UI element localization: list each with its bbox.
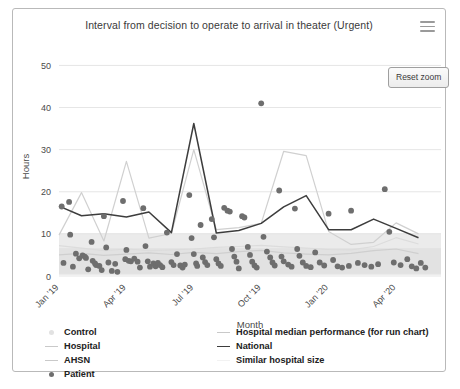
patient-data-point	[189, 235, 195, 241]
patient-data-point	[346, 263, 352, 269]
patient-data-point	[160, 264, 166, 270]
patient-data-point	[89, 239, 95, 245]
patient-data-point	[418, 260, 424, 266]
legend-label-national: National	[236, 341, 272, 351]
x-tick-label: Apr '20	[370, 282, 397, 309]
patient-data-point	[59, 204, 65, 210]
patient-data-point	[267, 255, 273, 261]
svg-text:Oct '19: Oct '19	[236, 282, 263, 309]
patient-data-point	[103, 245, 109, 251]
patient-data-point	[61, 260, 67, 266]
legend-item-patient[interactable]: Patient	[43, 367, 100, 381]
legend-item-control[interactable]: Control	[43, 325, 100, 339]
patient-data-point	[186, 192, 192, 198]
patient-data-point	[245, 244, 251, 250]
patient-data-point	[294, 246, 300, 252]
patient-data-point	[67, 232, 73, 238]
patient-data-point	[242, 215, 248, 221]
y-tick-label: 0	[46, 272, 51, 282]
svg-text:Apr '19: Apr '19	[101, 282, 128, 309]
legend-column-left: Control Hospital AHSN Patient	[43, 325, 100, 381]
patient-data-point	[137, 265, 143, 271]
patient-data-point	[66, 199, 72, 205]
patient-data-point	[234, 259, 240, 265]
patient-data-point	[209, 216, 215, 222]
legend-item-hospital-median[interactable]: Hospital median performance (for run cha…	[215, 325, 428, 339]
patient-data-point	[194, 263, 200, 269]
patient-data-point	[204, 262, 210, 268]
patient-data-point	[386, 229, 392, 235]
patient-data-point	[339, 265, 345, 271]
legend-label-control: Control	[64, 327, 97, 337]
patient-data-point	[404, 256, 410, 262]
patient-data-point	[174, 251, 180, 257]
svg-text:Jan '19: Jan '19	[33, 282, 60, 309]
patient-data-point	[312, 250, 318, 256]
legend-label-hospital: Hospital	[64, 341, 100, 351]
patient-data-point	[261, 234, 267, 240]
patient-data-point	[254, 265, 260, 271]
y-tick-label: 10	[41, 229, 51, 239]
patient-data-point	[140, 205, 146, 211]
x-tick-label: Jan '20	[303, 282, 330, 309]
legend-item-hospital[interactable]: Hospital	[43, 339, 100, 353]
national-line-icon	[215, 341, 232, 351]
svg-text:Jan '20: Jan '20	[303, 282, 330, 309]
patient-data-point	[247, 252, 253, 258]
control-marker-icon	[43, 327, 60, 337]
patient-data-point	[276, 188, 282, 194]
legend-item-national[interactable]: National	[215, 339, 428, 353]
patient-data-point	[120, 198, 126, 204]
patient-data-point	[368, 264, 374, 270]
y-axis-label: Hours	[20, 154, 31, 180]
svg-text:Apr '20: Apr '20	[370, 282, 397, 309]
patient-data-point	[124, 247, 130, 253]
patient-data-point	[99, 267, 105, 273]
patient-data-point	[101, 213, 107, 219]
patient-dot-icon	[43, 369, 60, 379]
patient-data-point	[362, 262, 368, 268]
patient-data-point	[236, 266, 242, 272]
reset-zoom-button[interactable]: Reset zoom	[388, 67, 449, 88]
patient-data-point	[115, 269, 121, 275]
patient-data-point	[198, 222, 204, 228]
patient-data-point	[391, 260, 397, 266]
patient-data-point	[348, 208, 354, 214]
y-tick-label: 20	[41, 187, 51, 197]
patient-data-point	[272, 263, 278, 269]
x-tick-label: Jul '19	[170, 282, 195, 307]
patient-data-point	[164, 230, 170, 236]
patient-data-point	[413, 266, 419, 272]
patient-data-point	[85, 266, 91, 272]
series-line-national	[59, 124, 419, 238]
chart-svg: 01020304050Jan '19Apr '19Jul '19Oct '19J…	[13, 9, 447, 329]
patient-data-point	[135, 259, 141, 265]
y-tick-label: 30	[41, 145, 51, 155]
legend-label-similar-hospital-size: Similar hospital size	[236, 355, 324, 365]
patient-data-point	[375, 261, 381, 267]
legend-item-similar-hospital-size[interactable]: Similar hospital size	[215, 353, 428, 367]
patient-data-point	[289, 264, 295, 270]
chart-panel: Interval from decision to operate to arr…	[12, 8, 446, 372]
patient-data-point	[398, 262, 404, 268]
hospital-line-icon	[43, 341, 60, 351]
similar-hospital-size-line-icon	[215, 355, 232, 365]
legend-item-ahsn[interactable]: AHSN	[43, 353, 100, 367]
patient-data-point	[308, 264, 314, 270]
legend-label-patient: Patient	[64, 369, 95, 379]
patient-data-point	[211, 234, 217, 240]
patient-data-point	[382, 186, 388, 192]
patient-data-point	[143, 243, 149, 249]
patient-data-point	[292, 206, 298, 212]
svg-text:Jul '19: Jul '19	[170, 282, 195, 307]
patient-data-point	[231, 254, 237, 260]
ahsn-line-icon	[43, 355, 60, 365]
patient-data-point	[171, 262, 177, 268]
patient-data-point	[321, 263, 327, 269]
x-tick-label: Jan '19	[33, 282, 60, 309]
patient-data-point	[330, 257, 336, 263]
patient-data-point	[106, 260, 112, 266]
patient-data-point	[264, 249, 270, 255]
chart-legend: Control Hospital AHSN Patient Hospital m…	[13, 325, 447, 371]
legend-label-hospital-median: Hospital median performance (for run cha…	[236, 327, 428, 337]
